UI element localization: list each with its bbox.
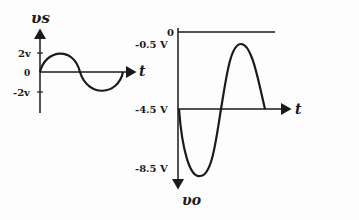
tick-label-minus-8-5: -8.5 V (135, 163, 168, 174)
input-x-label: t (139, 63, 146, 79)
tick-label-minus-0-5: -0.5 V (135, 39, 168, 50)
tick-label-origin: 0 (24, 68, 30, 78)
tick-label-2v: 2v (18, 48, 32, 59)
output-plot: 0 -0.5 V -4.5 V -8.5 V t υo (135, 27, 302, 208)
output-wave (179, 44, 265, 176)
output-y-label: υo (182, 192, 201, 208)
input-y-label: υs (31, 9, 50, 27)
output-x-label: t (295, 101, 302, 117)
tick-label-minus-4-5: -4.5 V (135, 104, 168, 115)
tick-label-minus-2v: -2v (13, 87, 31, 98)
input-plot: υs 2v 0 -2v t (13, 9, 146, 113)
diagram-canvas: υs 2v 0 -2v t 0 -0.5 V -4.5 V -8.5 V t υ… (0, 0, 359, 220)
tick-label-0: 0 (167, 27, 174, 38)
